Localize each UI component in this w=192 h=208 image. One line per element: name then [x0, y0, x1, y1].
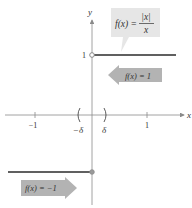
callout-lhs: f(x) = [115, 19, 137, 30]
y-axis-label: y [87, 7, 92, 17]
lower-arrow-text: f(x) = −1 [25, 183, 57, 193]
delta-label: δ [102, 125, 107, 135]
upper-arrow-label: f(x) = 1 [108, 65, 162, 85]
open-point [90, 53, 95, 58]
neg-delta-label: −δ [73, 125, 84, 135]
callout-numerator: |x| [141, 12, 150, 22]
callout-denominator: x [143, 25, 149, 35]
lower-arrow-label: f(x) = −1 [21, 177, 77, 199]
x-tick-label-neg1: −1 [29, 121, 38, 130]
upper-arrow-text: f(x) = 1 [125, 71, 151, 81]
graph-figure: f(x) = |x| x x y −1 1 1 −δ δ f(x) = 1 f(… [0, 0, 192, 208]
x-tick-label-1: 1 [145, 121, 149, 130]
closed-point [90, 170, 95, 175]
x-axis-label: x [186, 110, 191, 120]
function-callout: f(x) = |x| x [111, 8, 160, 52]
y-tick-label-1: 1 [82, 51, 86, 60]
